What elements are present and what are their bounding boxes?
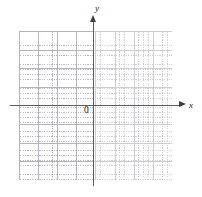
y-axis-line bbox=[93, 22, 94, 186]
x-axis-arrow-icon bbox=[179, 101, 186, 107]
x-axis-line bbox=[10, 105, 182, 106]
coordinate-plane-figure: x y 0 bbox=[0, 0, 202, 197]
y-axis-label: y bbox=[95, 4, 99, 13]
origin-label: 0 bbox=[84, 106, 89, 116]
y-axis-arrow-icon bbox=[90, 15, 96, 22]
x-axis-label: x bbox=[189, 101, 193, 110]
